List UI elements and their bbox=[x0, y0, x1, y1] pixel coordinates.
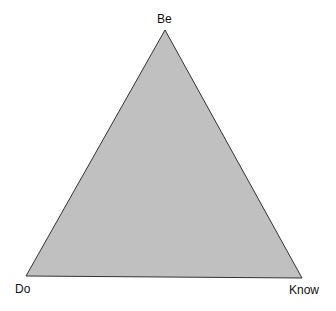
triangle-shape bbox=[0, 0, 336, 311]
triangle-polygon bbox=[26, 30, 302, 278]
vertex-label-top: Be bbox=[157, 13, 172, 25]
vertex-label-bottom-right: Know bbox=[289, 284, 319, 296]
be-do-know-triangle-diagram: Be Do Know bbox=[0, 0, 336, 311]
vertex-label-bottom-left: Do bbox=[15, 283, 30, 295]
